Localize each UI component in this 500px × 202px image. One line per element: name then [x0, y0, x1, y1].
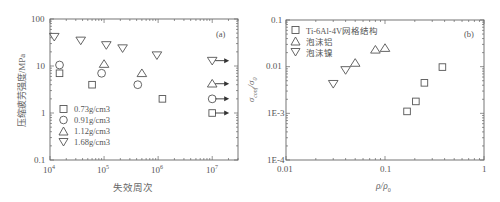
- chart-b-xtick-0.1: 0.1: [380, 165, 391, 174]
- triangle-down-marker-icon: [290, 47, 302, 57]
- chart-b-panel-label: (b): [464, 29, 474, 39]
- legend-item-1.12: 1.12g/cm3: [58, 125, 110, 136]
- legend-label: 0.91g/cm3: [74, 115, 110, 125]
- chart-b-ytick-0.01: 0.01: [266, 62, 282, 71]
- legend-item-ni-foam: 泡沫镍: [290, 46, 378, 57]
- legend-item-0.73: 0.73g/cm3: [58, 103, 110, 114]
- square-marker: [413, 98, 420, 105]
- square-marker: [209, 110, 216, 117]
- arrowhead-icon: [224, 58, 229, 63]
- chart-b-legend: Ti-6Al-4V网格结构 泡沫铝 泡沫镍: [290, 24, 378, 57]
- triangle-down-marker: [102, 42, 112, 50]
- triangle-up-marker-icon: [290, 36, 302, 46]
- chart-b-ytick-0.1: 0.1: [271, 16, 282, 25]
- triangle-down-marker: [118, 45, 128, 53]
- square-marker: [56, 70, 63, 77]
- chart-a-xtick-1e4: 104: [43, 164, 55, 175]
- chart-a-xtick-1e5: 105: [97, 164, 109, 175]
- circle-marker: [56, 61, 64, 69]
- triangle-up-marker: [350, 59, 360, 67]
- chart-a-ytick-100: 100: [31, 15, 45, 24]
- legend-label: 1.68g/cm3: [74, 137, 110, 147]
- circle-marker: [208, 95, 216, 103]
- square-marker-icon: [290, 25, 302, 35]
- legend-item-ti6al4v: Ti-6Al-4V网格结构: [290, 24, 378, 35]
- square-marker: [421, 80, 428, 87]
- square-marker: [89, 81, 96, 88]
- square-marker: [404, 108, 411, 115]
- triangle-up-marker: [137, 69, 147, 77]
- square-marker: [159, 96, 166, 103]
- triangle-up-marker-icon: [58, 126, 70, 136]
- triangle-up-marker: [207, 79, 217, 87]
- triangle-down-marker: [76, 37, 86, 45]
- chart-b-relative-strength: σconf/σ0 ρ/ρ0 (b) 0.1 0.01 1E-3 1E-4 0.0…: [250, 0, 500, 202]
- chart-a-y-axis-label: 压缩疲劳强度/MPa: [15, 36, 28, 146]
- chart-a-ytick-1: 1: [41, 109, 46, 118]
- triangle-down-marker: [207, 57, 217, 65]
- triangle-up-marker: [99, 60, 109, 68]
- triangle-down-marker: [341, 67, 351, 75]
- arrowhead-icon: [224, 96, 229, 101]
- chart-b-ytick-1e-3: 1E-3: [267, 109, 285, 118]
- chart-b-y-axis-label: σconf/σ0: [246, 70, 258, 110]
- triangle-down-marker: [328, 80, 338, 88]
- chart-a-ytick-10: 10: [36, 62, 45, 71]
- legend-label: 泡沫镍: [306, 46, 333, 58]
- chart-a-panel-label: (a): [216, 29, 225, 39]
- legend-label: 1.12g/cm3: [74, 126, 110, 136]
- arrowhead-icon: [224, 81, 229, 86]
- triangle-down-marker: [49, 33, 59, 41]
- square-marker: [439, 64, 446, 71]
- chart-b-xtick-0.01: 0.01: [277, 165, 293, 174]
- chart-a-legend: 0.73g/cm3 0.91g/cm3 1.12g/cm3 1.68g/cm3: [58, 103, 110, 147]
- triangle-up-marker: [380, 44, 390, 52]
- legend-label: 0.73g/cm3: [74, 104, 110, 114]
- circle-marker: [134, 81, 142, 89]
- triangle-down-marker: [152, 52, 162, 60]
- chart-a-xtick-1e7: 107: [206, 164, 218, 175]
- chart-a-x-axis-label: 失效周次: [113, 180, 153, 194]
- square-marker-icon: [58, 104, 70, 114]
- chart-b-xtick-1: 1: [482, 165, 487, 174]
- chart-a-fatigue-strength: 压缩疲劳强度/MPa 失效周次 (a) 100 10 1 0.1 104 105…: [0, 0, 250, 202]
- legend-item-1.68: 1.68g/cm3: [58, 136, 110, 147]
- circle-marker: [98, 69, 106, 77]
- legend-item-al-foam: 泡沫铝: [290, 35, 378, 46]
- chart-b-x-axis-label: ρ/ρ0: [376, 181, 391, 193]
- chart-a-xtick-1e6: 106: [151, 164, 163, 175]
- triangle-down-marker-icon: [58, 137, 70, 147]
- arrowhead-icon: [224, 111, 229, 116]
- circle-marker-icon: [58, 115, 70, 125]
- legend-item-0.91: 0.91g/cm3: [58, 114, 110, 125]
